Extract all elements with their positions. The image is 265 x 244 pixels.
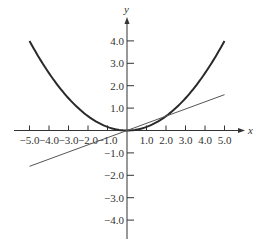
y-axis-arrow-icon [125, 17, 130, 24]
x-tick-label: −4.0 [39, 134, 59, 146]
y-tick-label: −3.0 [104, 192, 124, 204]
x-tick-label: 4.0 [198, 134, 212, 146]
y-tick-label: 2.0 [110, 80, 124, 92]
x-tick-label: −2.0 [78, 134, 98, 146]
x-axis-arrow-icon [238, 128, 245, 133]
x-axis-label: x [247, 124, 253, 136]
x-tick-label: 3.0 [179, 134, 193, 146]
function-plot: −5.0−4.0−3.0−2.0−1.01.02.03.04.05.0 4.03… [0, 0, 265, 244]
x-tick-label: 2.0 [159, 134, 173, 146]
x-tick-label: −3.0 [59, 134, 79, 146]
x-tick-label: 5.0 [218, 134, 232, 146]
y-tick-label: 4.0 [110, 35, 124, 47]
y-tick-label: −2.0 [104, 169, 124, 181]
x-tick-label: −5.0 [20, 134, 40, 146]
y-axis-label: y [123, 3, 129, 15]
y-tick-label: −1.0 [104, 147, 124, 159]
y-tick-label: 3.0 [110, 57, 124, 69]
y-tick-label: 1.0 [110, 102, 124, 114]
y-tick-label: −4.0 [104, 214, 124, 226]
x-tick-label: 1.0 [140, 134, 154, 146]
x-axis-ticks: −5.0−4.0−3.0−2.0−1.01.02.03.04.05.0 [20, 126, 232, 146]
